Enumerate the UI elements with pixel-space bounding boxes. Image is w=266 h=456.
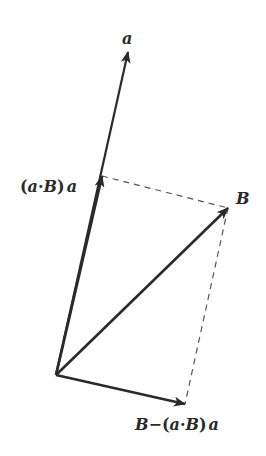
dashed-line-B-to-perp [185,208,228,404]
label-B: B [235,189,250,208]
dashed-line-proj-to-B [102,176,228,208]
label-projection: (a·B)a [20,177,77,196]
vector-projection-arrow [56,176,102,375]
label-perpendicular: B−(a·B)a [134,415,219,434]
label-a: a [122,29,132,48]
vector-B-arrow [56,208,228,375]
vector-perpendicular-arrow [56,375,185,404]
vector-diagram: a (a·B)a B B−(a·B)a [0,0,266,456]
